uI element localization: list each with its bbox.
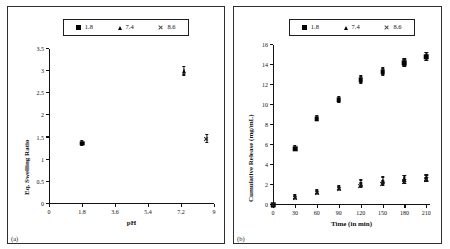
x-axis-tick-label: 7.2: [177, 209, 185, 215]
error-bar-cap: [359, 75, 362, 76]
data-point-x: [424, 178, 429, 183]
data-point-square: [424, 55, 429, 60]
x-axis-tick: [82, 204, 83, 207]
y-axis-tick-label: 0.5: [37, 179, 45, 185]
y-axis-title-a: Eq. Swelling Ratio: [23, 140, 31, 195]
data-point-x: [292, 195, 297, 200]
data-point-square: [80, 141, 85, 146]
y-axis-tick-label: 1.5: [37, 135, 45, 141]
data-point-x: [271, 202, 276, 207]
y-axis-tick: [270, 64, 273, 65]
error-bar-cap: [403, 58, 406, 59]
legend-label: 7.4: [126, 24, 134, 31]
x-axis-tick: [339, 205, 340, 208]
x-axis-tick-label: 180: [400, 210, 409, 216]
legend-label: 8.6: [167, 24, 175, 31]
panel-a: 1.8 7.4 8.6 Eq. Swelling Ratio pH 00.511…: [7, 6, 225, 244]
legend-panel-a: 1.8 7.4 8.6: [63, 19, 189, 36]
triangle-marker-icon: [118, 26, 122, 30]
y-axis-tick: [270, 84, 273, 85]
error-bar-cap: [403, 65, 406, 66]
error-bar-cap: [381, 67, 384, 68]
legend-item-1.8: 1.8: [76, 24, 93, 31]
x-axis-tick-label: 9: [213, 209, 216, 215]
square-marker-icon: [302, 25, 306, 29]
y-axis-tick: [270, 124, 273, 125]
legend-label: 8.6: [393, 24, 401, 31]
x-axis-tick: [49, 204, 50, 207]
y-axis-tick-label: 2: [265, 182, 268, 188]
legend-item-7.4: 7.4: [344, 24, 360, 31]
x-axis-tick-label: 120: [356, 210, 365, 216]
data-point-square: [315, 116, 320, 121]
y-axis-tick: [270, 44, 273, 45]
error-bar-cap: [205, 134, 208, 135]
x-axis-tick-label: 0: [48, 209, 51, 215]
data-point-x: [380, 181, 385, 186]
x-axis-b: [273, 204, 430, 205]
data-point-x: [358, 183, 363, 188]
y-axis-tick: [270, 184, 273, 185]
x-axis-tick-label: 90: [336, 210, 342, 216]
x-axis-tick: [148, 204, 149, 207]
figure-container: 1.8 7.4 8.6 Eq. Swelling Ratio pH 00.511…: [0, 0, 450, 249]
x-axis-tick: [361, 205, 362, 208]
data-point-x: [204, 136, 209, 141]
y-axis-a: [49, 49, 50, 204]
x-axis-tick-label: 150: [378, 210, 387, 216]
panel-b: 1.8 7.4 8.6 Cumulative Release (mg/mL) T…: [233, 6, 442, 244]
plot-area-b: Cumulative Release (mg/mL) Time (in min)…: [273, 45, 430, 205]
panel-a-tag: (a): [11, 235, 18, 242]
data-point-x: [336, 186, 341, 191]
x-axis-tick-label: 5.4: [144, 209, 152, 215]
x-axis-tick-label: 3.6: [111, 209, 119, 215]
data-point-square: [380, 70, 385, 75]
legend-label: 1.8: [85, 24, 93, 31]
data-point-square: [293, 146, 298, 151]
y-axis-tick: [270, 144, 273, 145]
y-axis-tick-label: 1: [41, 157, 44, 163]
x-axis-tick-label: 0: [272, 210, 275, 216]
y-axis-tick-label: 16: [262, 42, 268, 48]
y-axis-tick-label: 0: [41, 201, 44, 207]
error-bar-cap: [182, 66, 185, 67]
y-axis-tick-label: 3.5: [37, 46, 45, 52]
panel-b-tag: (b): [237, 235, 245, 242]
x-axis-tick-label: 30: [292, 210, 298, 216]
data-point-triangle: [182, 69, 186, 74]
x-axis-title-a: pH: [49, 219, 214, 227]
error-bar-cap: [425, 60, 428, 61]
x-axis-tick: [383, 205, 384, 208]
y-axis-tick: [46, 70, 49, 71]
y-axis-tick: [46, 159, 49, 160]
square-marker-icon: [76, 25, 80, 29]
y-axis-tick-label: 12: [262, 82, 268, 88]
x-axis-tick-label: 1.8: [78, 209, 86, 215]
x-axis-tick: [317, 205, 318, 208]
y-axis-tick: [46, 92, 49, 93]
error-bar-cap: [205, 142, 208, 143]
y-axis-tick-label: 10: [262, 102, 268, 108]
y-axis-tick: [270, 164, 273, 165]
legend-item-7.4: 7.4: [118, 24, 134, 31]
x-axis-a: [49, 203, 214, 204]
error-bar-cap: [381, 74, 384, 75]
data-point-square: [358, 78, 363, 83]
y-axis-tick-label: 2.5: [37, 90, 45, 96]
data-point-x: [402, 180, 407, 185]
triangle-marker-icon: [344, 26, 348, 30]
x-axis-tick: [404, 205, 405, 208]
y-axis-tick: [46, 114, 49, 115]
legend-item-8.6: 8.6: [158, 24, 175, 31]
legend-item-1.8: 1.8: [302, 24, 319, 31]
error-bar-cap: [359, 82, 362, 83]
data-point-square: [402, 61, 407, 66]
legend-label: 1.8: [311, 24, 319, 31]
plot-area-a: Eq. Swelling Ratio pH 00.511.522.533.501…: [49, 49, 214, 204]
data-point-square: [336, 98, 341, 103]
error-bar-cap: [425, 52, 428, 53]
legend-panel-b: 1.8 7.4 8.6: [289, 19, 415, 36]
error-bar-cap: [182, 74, 185, 75]
y-axis-tick: [46, 48, 49, 49]
y-axis-tick-label: 3: [41, 68, 44, 74]
